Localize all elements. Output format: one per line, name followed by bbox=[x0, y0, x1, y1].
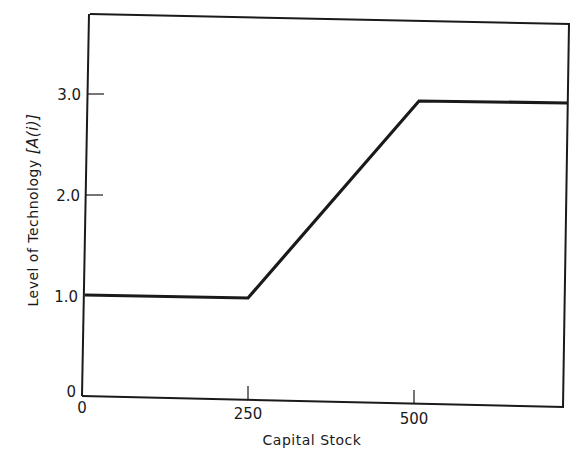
y-axis-title: Level of Technology [A(i)] bbox=[24, 113, 42, 306]
y-axis bbox=[82, 14, 89, 396]
frame-top bbox=[90, 14, 570, 24]
y-tick-label-2: 2.0 bbox=[56, 187, 80, 205]
y-axis-title-math: [A(i)] bbox=[24, 113, 42, 154]
x-tick-label-500: 500 bbox=[400, 410, 429, 428]
x-axis bbox=[82, 396, 564, 407]
x-tick-label-250: 250 bbox=[234, 405, 263, 423]
y-tick-label-3: 3.0 bbox=[57, 86, 81, 104]
x-tick-label-0: 0 bbox=[77, 399, 87, 417]
y-axis-title-text: Level of Technology bbox=[25, 154, 41, 306]
series-technology-level bbox=[85, 101, 567, 298]
y-tick-label-0: 0 bbox=[66, 383, 76, 401]
y-tick-label-1: 1.0 bbox=[54, 288, 78, 306]
frame-right bbox=[563, 24, 569, 407]
technology-capital-chart: 3.0 2.0 1.0 0 0 250 500 Capital Stock Le… bbox=[0, 0, 581, 467]
x-axis-title: Capital Stock bbox=[263, 432, 362, 448]
y-ticks bbox=[86, 94, 104, 195]
